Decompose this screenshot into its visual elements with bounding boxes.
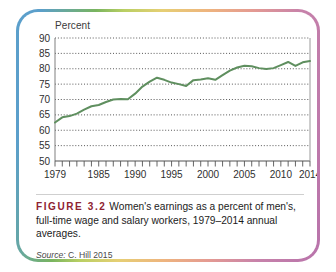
x-tick-label: 2010 [270, 169, 293, 180]
x-tick-label: 1985 [88, 169, 111, 180]
x-tick-label: 2000 [197, 169, 220, 180]
x-tick-label: 1990 [124, 169, 147, 180]
y-tick-label: 50 [39, 156, 51, 167]
caption-divider [36, 194, 304, 195]
y-tick-label: 60 [39, 125, 51, 136]
x-tick-label: 1979 [44, 169, 67, 180]
figure-label: FIGURE 3.2 [36, 201, 106, 212]
y-tick-label: 75 [39, 79, 51, 90]
y-tick-label: 55 [39, 140, 51, 151]
source-word: Source: [36, 250, 66, 259]
x-tick-label: 1995 [160, 169, 183, 180]
y-tick-label: 90 [39, 33, 51, 44]
figure-card: Percent 90858075706560555019791985199019… [16, 9, 320, 262]
y-tick-label: 65 [39, 109, 51, 120]
caption-block: FIGURE 3.2 Women's earnings as a percent… [36, 194, 306, 259]
y-tick-label: 70 [39, 94, 51, 105]
x-tick-label: 2014 [299, 169, 317, 180]
data-line-womens-earnings [55, 61, 310, 122]
figure-caption: FIGURE 3.2 Women's earnings as a percent… [36, 200, 306, 241]
y-tick-label: 80 [39, 63, 51, 74]
y-tick-label: 85 [39, 48, 51, 59]
x-tick-label: 2005 [233, 169, 256, 180]
chart: Percent 90858075706560555019791985199019… [19, 12, 317, 187]
source-line: Source: C. Hill 2015 [36, 250, 306, 259]
source-text: C. Hill 2015 [66, 250, 113, 259]
figure-inner: Percent 90858075706560555019791985199019… [19, 12, 317, 259]
line-chart-svg: 9085807570656055501979198519901995200020… [19, 12, 317, 187]
